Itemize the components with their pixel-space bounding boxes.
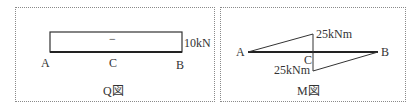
q-caption: Q図 [103,85,124,97]
diagram-drawing [0,0,419,110]
m-caption: M図 [297,85,320,97]
q-point-a: A [41,57,50,69]
shear-rectangle [50,32,182,52]
q-point-b: B [176,59,184,71]
q-value-label: 10kN [184,37,211,49]
m-point-b: B [381,46,389,58]
m-point-a: A [236,46,245,58]
m-bottom-value-label: 25kNm [274,64,310,76]
q-point-c: C [109,57,117,69]
m-top-value-label: 25kNm [316,28,352,40]
q-sign-label: − [109,33,116,45]
